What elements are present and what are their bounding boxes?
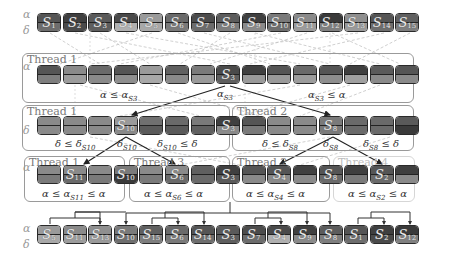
- alpha-half: [345, 66, 367, 75]
- cell-label: S4: [268, 226, 290, 243]
- cell-label: S1: [345, 226, 367, 243]
- array-cell: [395, 165, 419, 184]
- alpha-half: [89, 66, 111, 75]
- delta-half: [140, 75, 162, 84]
- array-cell: [344, 65, 368, 84]
- cell-label: S3: [217, 117, 239, 134]
- alpha-half: [140, 66, 162, 75]
- array-cell: S5: [37, 225, 61, 244]
- condition: α ≤ αS11 ≤ α: [42, 188, 105, 202]
- delta-half: [396, 175, 418, 184]
- cell-label: S2: [371, 166, 393, 183]
- delta-axis-label: δ: [23, 24, 30, 37]
- array-cell: S4: [267, 225, 291, 244]
- array-cell: [293, 165, 317, 184]
- alpha-half: [166, 117, 188, 126]
- delta-half: [64, 126, 86, 135]
- cell-label: S8: [320, 117, 342, 134]
- array-cell: [370, 116, 394, 135]
- cell-label: S4: [115, 14, 137, 31]
- condition-left: α ≤ αS3: [100, 89, 138, 103]
- delta-half: [89, 75, 111, 84]
- condition: α ≤ αS6 ≤ α: [144, 188, 203, 202]
- cell-label: S6: [166, 14, 188, 31]
- cell-label: S9: [243, 14, 265, 31]
- delta-half: [268, 75, 290, 84]
- partition-level2-row: S10S3S8: [37, 116, 421, 135]
- alpha-half: [192, 66, 214, 75]
- array-cell: S1: [344, 225, 368, 244]
- cell-label: S6: [166, 226, 188, 243]
- array-cell: S11: [293, 13, 317, 32]
- array-cell: S14: [370, 13, 394, 32]
- array-cell: S10: [114, 116, 138, 135]
- alpha-half: [140, 117, 162, 126]
- delta-half: [268, 126, 290, 135]
- array-cell: S1: [37, 13, 61, 32]
- delta-half: [115, 75, 137, 84]
- cell-label: S5: [140, 14, 162, 31]
- array-cell: [267, 65, 291, 84]
- array-cell: [114, 65, 138, 84]
- delta-half: [89, 175, 111, 184]
- cell-label: S11: [64, 226, 86, 243]
- alpha-half: [268, 66, 290, 75]
- array-cell: S10: [267, 13, 291, 32]
- cell-label: S10: [115, 166, 137, 183]
- alpha-half: [396, 66, 418, 75]
- array-cell: S3: [216, 165, 240, 184]
- cell-label: S8: [217, 14, 239, 31]
- array-cell: S6: [165, 13, 189, 32]
- array-cell: S8: [319, 165, 343, 184]
- delta-half: [345, 175, 367, 184]
- alpha-half: [38, 66, 60, 75]
- array-cell: [395, 65, 419, 84]
- pivot-label: αS3: [217, 88, 233, 102]
- array-cell: S9: [242, 13, 266, 32]
- array-cell: [370, 65, 394, 84]
- cell-label: S12: [320, 14, 342, 31]
- alpha-half: [396, 166, 418, 175]
- alpha-half: [371, 66, 393, 75]
- delta-half: [320, 75, 342, 84]
- array-cell: S12: [319, 13, 343, 32]
- array-cell: S6: [165, 165, 189, 184]
- cell-label: S14: [371, 14, 393, 31]
- array-cell: S13: [88, 225, 112, 244]
- cell-label: S7: [243, 226, 265, 243]
- cell-label: S7: [192, 14, 214, 31]
- cell-label: S3: [217, 166, 239, 183]
- cell-label: S9: [294, 226, 316, 243]
- alpha-half: [192, 117, 214, 126]
- cell-label: S8: [320, 166, 342, 183]
- cell-label: S11: [64, 166, 86, 183]
- array-cell: S10: [114, 225, 138, 244]
- cell-label: S5: [38, 226, 60, 243]
- cell-label: S10: [268, 14, 290, 31]
- cell-label: S10: [115, 117, 137, 134]
- array-cell: S9: [293, 225, 317, 244]
- delta-half: [243, 126, 265, 135]
- array-cell: [88, 116, 112, 135]
- alpha-half: [166, 66, 188, 75]
- array-cell: S3: [88, 13, 112, 32]
- cell-label: S1: [38, 14, 60, 31]
- array-cell: [344, 165, 368, 184]
- array-cell: [242, 65, 266, 84]
- alpha-half: [64, 66, 86, 75]
- array-cell: [139, 116, 163, 135]
- cell-label: S2: [64, 14, 86, 31]
- array-cell: S2: [63, 13, 87, 32]
- array-cell: S2: [370, 225, 394, 244]
- cell-label: S11: [294, 14, 316, 31]
- merge-brackets: [50, 202, 410, 224]
- delta-half: [166, 75, 188, 84]
- array-cell: [139, 165, 163, 184]
- alpha-half: [268, 117, 290, 126]
- array-cell: S3: [216, 65, 240, 84]
- condition: α ≤ αS2 ≤ α: [348, 188, 407, 202]
- delta-half: [243, 175, 265, 184]
- array-cell: S12: [395, 225, 419, 244]
- array-cell: S5: [139, 13, 163, 32]
- alpha-half: [294, 66, 316, 75]
